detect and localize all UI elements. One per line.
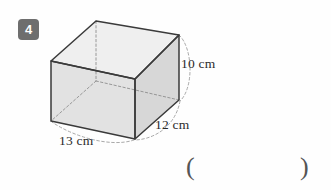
dimension-label-depth: 12 cm <box>155 117 189 133</box>
answer-blank[interactable]: ( ) <box>186 152 314 182</box>
dimension-label-height: 10 cm <box>181 56 215 72</box>
dimension-label-width: 13 cm <box>59 133 93 149</box>
answer-open-paren: ( <box>186 152 195 182</box>
answer-close-paren: ) <box>300 152 309 182</box>
worksheet-page: 4 <box>0 0 331 190</box>
